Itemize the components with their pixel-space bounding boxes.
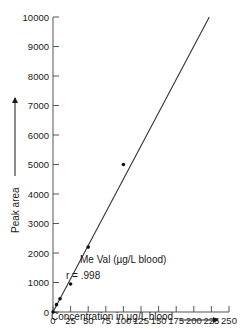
y-tick-label: 6000 bbox=[28, 130, 49, 141]
y-tick-label: 2000 bbox=[28, 248, 49, 259]
y-tick-label: 3000 bbox=[28, 218, 49, 229]
data-points bbox=[51, 163, 125, 314]
y-tick-label: 8000 bbox=[28, 71, 49, 82]
data-point bbox=[122, 163, 126, 167]
x-axis-title: Concentration in µg/L blood bbox=[51, 311, 173, 322]
regression-line bbox=[53, 17, 209, 312]
data-point bbox=[69, 282, 73, 286]
correlation-annotation: r = .998 bbox=[66, 270, 101, 281]
y-tick-label: 5000 bbox=[28, 159, 49, 170]
data-point bbox=[58, 297, 62, 301]
y-tick-label: 7000 bbox=[28, 100, 49, 111]
y-axis-title: Peak area bbox=[10, 187, 21, 233]
y-tick-label: 9000 bbox=[28, 41, 49, 52]
data-point bbox=[86, 245, 90, 249]
y-tick-label: 10000 bbox=[23, 12, 49, 23]
data-point bbox=[55, 303, 59, 307]
calibration-chart: 0100020003000400050006000700080009000100… bbox=[0, 0, 248, 329]
x-tick-label: 250 bbox=[221, 315, 237, 326]
y-tick-label: 1000 bbox=[28, 277, 49, 288]
y-axis: 0100020003000400050006000700080009000100… bbox=[23, 12, 59, 318]
series-annotation: Me Val (µg/L blood) bbox=[80, 254, 166, 265]
y-tick-label: 0 bbox=[44, 307, 49, 318]
y-tick-label: 4000 bbox=[28, 189, 49, 200]
